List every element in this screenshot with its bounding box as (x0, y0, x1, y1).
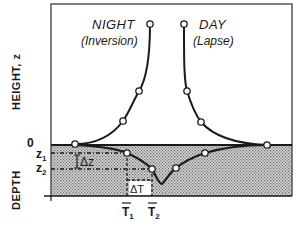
z1-subscript: 1 (42, 154, 47, 163)
night-title: NIGHT (92, 17, 136, 32)
z2-subscript: 2 (42, 168, 47, 177)
delta-t-label: ΔT (130, 183, 144, 195)
depth-point-4 (173, 165, 179, 171)
delta-z-label: Δz (80, 155, 94, 169)
day-point-3 (198, 119, 204, 125)
depth-point-t2 (149, 166, 155, 172)
night-point-surface (72, 141, 78, 147)
day-point-2 (184, 88, 190, 94)
zero-label: 0 (27, 136, 34, 150)
temperature-profile-diagram: NIGHT (Inversion) DAY (Lapse) HEIGHT, z … (0, 0, 296, 231)
height-axis-label: HEIGHT, z (10, 54, 22, 110)
t2-label: T2 (148, 205, 160, 221)
t1-label: T1 (122, 205, 134, 221)
t1-subscript: 1 (129, 212, 134, 221)
depth-point-5 (202, 150, 208, 156)
t2-subscript: 2 (155, 212, 160, 221)
depth-axis-label: DEPTH (10, 170, 22, 210)
day-title: DAY (199, 17, 227, 32)
night-subtitle: (Inversion) (81, 34, 138, 48)
night-point-top (147, 21, 153, 27)
z2-label: z2 (36, 161, 47, 177)
night-point-2 (136, 88, 142, 94)
day-point-top (181, 21, 187, 27)
day-subtitle: (Lapse) (193, 34, 234, 48)
depth-point-t1 (124, 150, 130, 156)
night-point-3 (120, 118, 126, 124)
day-point-surface (264, 142, 270, 148)
